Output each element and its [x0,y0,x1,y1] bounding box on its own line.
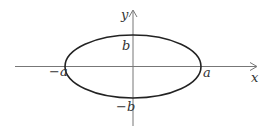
label-a: a [203,65,211,80]
label-b: b [122,38,130,53]
ellipse-diagram: y x b −b −a a [0,0,272,133]
y-axis-label: y [120,7,129,22]
diagram-svg: y x b −b −a a [0,0,272,133]
x-axis-label: x [251,70,259,85]
label-neg-b: −b [116,99,135,114]
label-neg-a: −a [49,64,68,79]
